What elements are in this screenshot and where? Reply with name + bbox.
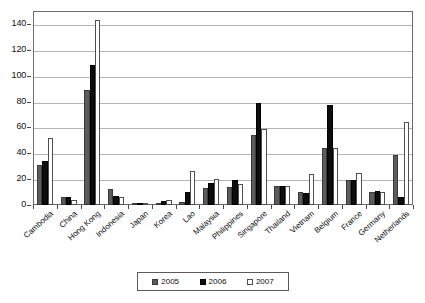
legend-item-2006: 2006 xyxy=(200,278,227,286)
y-tick-label-60: 60 xyxy=(16,122,26,131)
y-tick-label-140: 140 xyxy=(12,19,26,28)
bar-chart: 020406080100120140 CambodiaChinaHong Kon… xyxy=(0,0,425,303)
bar-group xyxy=(33,11,57,205)
bar-group xyxy=(247,11,271,205)
bar-group xyxy=(81,11,105,205)
bar-france-2007 xyxy=(356,173,361,205)
bar-hong-kong-2007 xyxy=(95,20,100,205)
x-axis-labels: CambodiaChinaHong KongIndonesiaJapanKore… xyxy=(0,205,425,267)
y-tick-mark-120 xyxy=(27,50,31,51)
legend-swatch-2007-icon xyxy=(247,279,253,285)
bar-indonesia-2007 xyxy=(119,197,124,205)
legend-swatch-2005-icon xyxy=(152,279,158,285)
legend-label-2006: 2006 xyxy=(209,278,227,286)
bar-group xyxy=(128,11,152,205)
bar-group xyxy=(176,11,200,205)
y-tick-label-20: 20 xyxy=(16,174,26,183)
y-tick-mark-60 xyxy=(27,127,31,128)
bar-group xyxy=(271,11,295,205)
bar-group xyxy=(104,11,128,205)
bars-layer xyxy=(33,11,413,205)
chart-legend: 2005 2006 2007 xyxy=(137,272,289,291)
bar-group xyxy=(223,11,247,205)
legend-swatch-2006-icon xyxy=(200,279,206,285)
bar-group xyxy=(199,11,223,205)
bar-singapore-2007 xyxy=(261,129,266,205)
bar-malaysia-2007 xyxy=(214,179,219,205)
bar-cambodia-2007 xyxy=(48,138,53,205)
bar-group xyxy=(342,11,366,205)
bar-philippines-2007 xyxy=(238,184,243,205)
legend-label-2007: 2007 xyxy=(256,278,274,286)
legend-label-2005: 2005 xyxy=(161,278,179,286)
bar-group xyxy=(57,11,81,205)
y-tick-label-120: 120 xyxy=(12,45,26,54)
bar-group xyxy=(294,11,318,205)
legend-item-2005: 2005 xyxy=(152,278,179,286)
y-tick-mark-100 xyxy=(27,76,31,77)
y-tick-mark-40 xyxy=(27,153,31,154)
bar-lao-2007 xyxy=(190,171,195,205)
bar-group xyxy=(389,11,413,205)
bar-group xyxy=(366,11,390,205)
y-tick-mark-140 xyxy=(27,24,31,25)
y-tick-label-40: 40 xyxy=(16,148,26,157)
y-tick-label-100: 100 xyxy=(12,71,26,80)
bar-vietnam-2007 xyxy=(309,174,314,205)
y-tick-mark-20 xyxy=(27,179,31,180)
bar-netherlands-2007 xyxy=(404,122,409,205)
bar-germany-2007 xyxy=(380,192,385,205)
bar-belgium-2007 xyxy=(333,148,338,205)
y-tick-mark-80 xyxy=(27,102,31,103)
bar-thailand-2007 xyxy=(285,186,290,205)
y-tick-label-80: 80 xyxy=(16,97,26,106)
legend-item-2007: 2007 xyxy=(247,278,274,286)
bar-group xyxy=(318,11,342,205)
bar-group xyxy=(152,11,176,205)
y-axis: 020406080100120140 xyxy=(0,11,31,205)
